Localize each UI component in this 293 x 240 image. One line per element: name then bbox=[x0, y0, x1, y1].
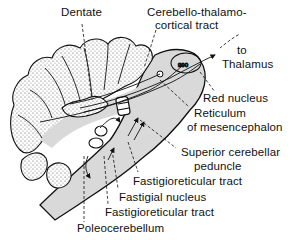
label-superior-cerebellar-line1: Superior cerebellar bbox=[181, 146, 280, 158]
label-to-thalamus-line2: Thalamus bbox=[222, 58, 273, 70]
label-fastigial-nucleus: Fastigial nucleus bbox=[119, 191, 206, 203]
label-fastigioreticular-lower: Fastigioreticular tract bbox=[105, 206, 214, 218]
label-fastigioreticular-upper: Fastigioreticular tract bbox=[133, 175, 242, 187]
label-cerebello-thalamo-line1: Cerebello-thalamo- bbox=[147, 6, 247, 18]
label-poleocerebellum: Poleocerebellum bbox=[77, 222, 164, 234]
svg-text:990: 990 bbox=[178, 62, 189, 68]
label-superior-cerebellar-line2: peduncle bbox=[194, 160, 241, 172]
label-cerebello-thalamo-line2: cortical tract bbox=[155, 19, 218, 31]
label-red-nucleus: Red nucleus bbox=[203, 92, 268, 104]
label-reticulum-line2: of mesencephalon bbox=[187, 121, 283, 133]
label-to-thalamus-line1: to bbox=[237, 44, 247, 56]
label-dentate: Dentate bbox=[61, 6, 102, 18]
diagram-illustration: 990 bbox=[0, 0, 293, 240]
cerebellar-pathways-diagram: 990 bbox=[0, 0, 293, 240]
label-reticulum-line1: Reticulum bbox=[194, 107, 246, 119]
